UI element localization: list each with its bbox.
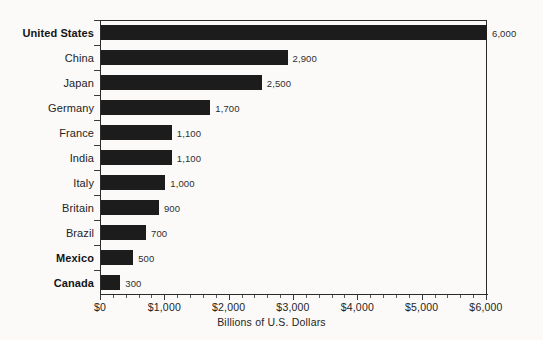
x-axis-minor-tick	[344, 295, 345, 298]
bar-row: 1,000	[101, 175, 487, 190]
bar	[101, 75, 262, 90]
bar-row: 1,100	[101, 150, 487, 165]
x-axis-line	[100, 294, 488, 295]
bar	[101, 150, 172, 165]
category-label: Japan	[64, 77, 94, 89]
x-axis-tick-label: $0	[94, 301, 106, 313]
x-axis-minor-tick	[447, 295, 448, 298]
y-axis-tick	[94, 20, 100, 21]
bar-row: 700	[101, 225, 487, 240]
x-axis-minor-tick	[332, 295, 333, 298]
bar-value-label: 1,700	[215, 102, 239, 113]
y-axis-tick	[94, 45, 100, 46]
category-label: France	[59, 127, 94, 139]
bar-row: 6,000	[101, 25, 487, 40]
chart-page: 6,0002,9002,5001,7001,1001,1001,00090070…	[0, 0, 543, 340]
x-axis-major-tick	[229, 295, 230, 300]
bar	[101, 175, 165, 190]
bar-value-label: 1,100	[177, 127, 201, 138]
y-axis-tick	[94, 195, 100, 196]
bar	[101, 125, 172, 140]
bar-value-label: 2,500	[267, 77, 291, 88]
bar	[101, 50, 288, 65]
y-axis-tick	[94, 95, 100, 96]
bar	[101, 25, 487, 40]
x-axis-major-tick	[293, 295, 294, 300]
bar-row: 500	[101, 250, 487, 265]
bar-row: 900	[101, 200, 487, 215]
x-axis-minor-tick	[126, 295, 127, 298]
x-axis-minor-tick	[113, 295, 114, 298]
bar	[101, 225, 146, 240]
bar-row: 2,500	[101, 75, 487, 90]
category-label: Britain	[62, 202, 94, 214]
x-axis-minor-tick	[216, 295, 217, 298]
bar	[101, 275, 120, 290]
y-axis-tick	[94, 170, 100, 171]
category-label: Mexico	[56, 252, 94, 264]
category-label: Germany	[48, 102, 94, 114]
category-label: China	[65, 52, 94, 64]
x-axis-tick-label: $2,000	[212, 301, 245, 313]
x-axis-minor-tick	[383, 295, 384, 298]
x-axis-tick-label: $1,000	[148, 301, 181, 313]
x-axis-major-tick	[100, 295, 101, 300]
x-axis-minor-tick	[242, 295, 243, 298]
x-axis-minor-tick	[370, 295, 371, 298]
y-axis-tick	[94, 220, 100, 221]
x-axis-title: Billions of U.S. Dollars	[0, 316, 543, 328]
x-axis-major-tick	[422, 295, 423, 300]
bar-value-label: 2,900	[293, 52, 317, 63]
plot-frame-top	[100, 20, 487, 21]
bar-value-label: 500	[138, 252, 154, 263]
bar	[101, 100, 210, 115]
bar-value-label: 6,000	[492, 27, 516, 38]
x-axis-minor-tick	[177, 295, 178, 298]
x-axis-major-tick	[486, 295, 487, 300]
bar-value-label: 1,100	[177, 152, 201, 163]
bar-value-label: 300	[125, 277, 141, 288]
x-axis-minor-tick	[254, 295, 255, 298]
category-label: India	[70, 152, 94, 164]
x-axis-minor-tick	[151, 295, 152, 298]
plot-area: 6,0002,9002,5001,7001,1001,1001,00090070…	[100, 20, 487, 295]
x-axis-minor-tick	[435, 295, 436, 298]
x-axis-minor-tick	[203, 295, 204, 298]
bar-row: 1,100	[101, 125, 487, 140]
bar-row: 1,700	[101, 100, 487, 115]
bar-value-label: 700	[151, 227, 167, 238]
bar	[101, 250, 133, 265]
x-axis-minor-tick	[139, 295, 140, 298]
category-label: Brazil	[66, 227, 94, 239]
x-axis-minor-tick	[306, 295, 307, 298]
y-axis-tick	[94, 270, 100, 271]
y-axis-tick	[94, 120, 100, 121]
bar-row: 2,900	[101, 50, 487, 65]
bar-row: 300	[101, 275, 487, 290]
x-axis-tick-label: $5,000	[405, 301, 438, 313]
x-axis-minor-tick	[280, 295, 281, 298]
x-axis-major-tick	[164, 295, 165, 300]
category-label: Canada	[54, 277, 94, 289]
x-axis-minor-tick	[460, 295, 461, 298]
y-axis-tick	[94, 245, 100, 246]
x-axis-tick-label: $3,000	[276, 301, 309, 313]
x-axis-minor-tick	[473, 295, 474, 298]
category-label: Italy	[73, 177, 94, 189]
y-axis-tick	[94, 145, 100, 146]
x-axis-tick-label: $4,000	[341, 301, 374, 313]
x-axis-minor-tick	[267, 295, 268, 298]
x-axis-major-tick	[357, 295, 358, 300]
y-axis-tick	[94, 70, 100, 71]
bar-value-label: 1,000	[170, 177, 194, 188]
x-axis-minor-tick	[409, 295, 410, 298]
bar	[101, 200, 159, 215]
bar-value-label: 900	[164, 202, 180, 213]
category-label: United States	[22, 27, 94, 39]
x-axis-minor-tick	[396, 295, 397, 298]
x-axis-minor-tick	[190, 295, 191, 298]
x-axis-minor-tick	[319, 295, 320, 298]
x-axis-tick-label: $6,000	[469, 301, 502, 313]
